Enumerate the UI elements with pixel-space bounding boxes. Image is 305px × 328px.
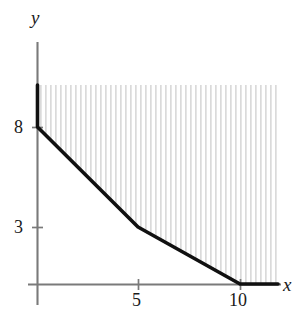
y-tick-label-3: 3	[14, 218, 23, 236]
chart-figure: y x 8 3 5 10	[0, 0, 305, 328]
y-tick-label-8: 8	[14, 118, 23, 136]
plot-canvas	[0, 0, 305, 328]
y-axis-label: y	[31, 8, 39, 27]
feasible-region-hatching	[37, 84, 279, 285]
x-axis-label: x	[283, 275, 291, 294]
x-tick-label-10: 10	[229, 291, 247, 309]
x-tick-label-5: 5	[132, 291, 141, 309]
